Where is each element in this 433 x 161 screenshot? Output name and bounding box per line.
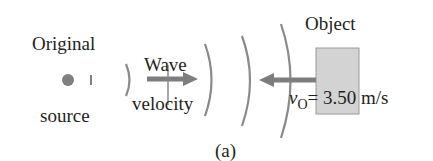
velocity-subscript: O xyxy=(297,97,307,112)
label-wave: Wave xyxy=(144,55,187,74)
label-object: Object xyxy=(305,14,356,33)
wavefront-arc-2 xyxy=(205,44,212,116)
source-dot xyxy=(62,74,74,86)
velocity-value: = 3.50 m/s xyxy=(308,87,389,108)
label-source: source xyxy=(40,106,90,125)
diagram-graphics xyxy=(0,0,433,161)
wavefront-arc-1 xyxy=(126,64,130,96)
object-velocity-arrow-head xyxy=(259,73,274,87)
label-original: Original xyxy=(32,34,95,53)
object-velocity-label: vO= 3.50 m/s xyxy=(289,88,388,107)
panel-label: (a) xyxy=(215,141,236,160)
wavefront-arc-3 xyxy=(242,36,250,126)
label-velocity: velocity xyxy=(132,94,193,113)
